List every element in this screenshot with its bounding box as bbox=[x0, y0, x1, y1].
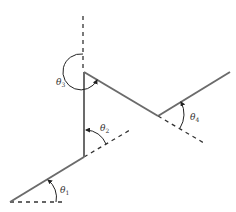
theta2-label: θ2 bbox=[100, 123, 109, 134]
linkage-diagram: θ1 θ2 θ3 θ4 bbox=[0, 0, 236, 212]
link-3 bbox=[84, 72, 158, 116]
theta4-label: θ4 bbox=[190, 112, 199, 123]
angle-arcs bbox=[48, 54, 184, 202]
theta3-arc-icon bbox=[63, 54, 97, 90]
link-4 bbox=[158, 72, 230, 116]
theta1-arc-icon bbox=[48, 180, 56, 202]
links bbox=[10, 72, 230, 202]
theta1-label: θ1 bbox=[60, 185, 69, 196]
theta4-arc-icon bbox=[180, 102, 184, 128]
reference-lines bbox=[10, 16, 204, 202]
reference-line-2 bbox=[84, 130, 130, 157]
link-1 bbox=[10, 157, 84, 202]
